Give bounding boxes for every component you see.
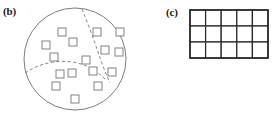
grid-cell bbox=[221, 26, 237, 42]
grid-cell bbox=[221, 42, 237, 58]
grid-cell bbox=[190, 42, 206, 58]
grid-cell bbox=[237, 42, 253, 58]
grid-cell bbox=[252, 26, 268, 42]
grid-cell bbox=[190, 26, 206, 42]
figure-container: (b) (c) bbox=[0, 0, 275, 117]
grid-cell bbox=[252, 10, 268, 26]
grid-cells-group bbox=[190, 10, 268, 58]
grid-cell bbox=[206, 26, 222, 42]
grid-cell bbox=[237, 26, 253, 42]
grid-cell bbox=[221, 10, 237, 26]
grid-cell bbox=[237, 10, 253, 26]
grid-cell bbox=[252, 42, 268, 58]
panel-c-grid bbox=[0, 0, 275, 117]
grid-cell bbox=[206, 42, 222, 58]
grid-cell bbox=[206, 10, 222, 26]
grid-cell bbox=[190, 10, 206, 26]
